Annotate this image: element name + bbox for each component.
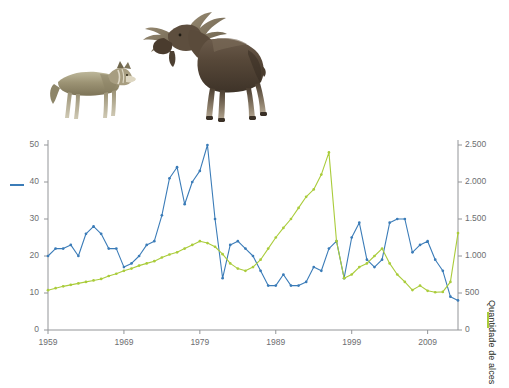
series-point bbox=[267, 284, 270, 287]
y-tick-right: 0 bbox=[465, 324, 495, 334]
series-point bbox=[69, 284, 72, 287]
series-point bbox=[388, 221, 391, 224]
y-tick-right: 500 bbox=[465, 287, 495, 297]
series-point bbox=[252, 255, 255, 258]
series-point bbox=[381, 258, 384, 261]
y-tick-right: 1.500 bbox=[465, 213, 495, 223]
series-point bbox=[358, 266, 361, 269]
series-point bbox=[77, 255, 80, 258]
series-point bbox=[411, 251, 414, 254]
series-point bbox=[312, 188, 315, 191]
series-point bbox=[441, 269, 444, 272]
y-tick-left: 50 bbox=[17, 139, 39, 149]
series-point bbox=[282, 273, 285, 276]
series-point bbox=[312, 266, 315, 269]
series-point bbox=[404, 281, 407, 284]
series-point bbox=[244, 269, 247, 272]
series-point bbox=[85, 232, 88, 235]
series-point bbox=[282, 227, 285, 230]
series-point bbox=[335, 240, 338, 243]
series-point bbox=[123, 266, 126, 269]
series-point bbox=[100, 278, 103, 281]
series-point bbox=[350, 236, 353, 239]
series-point bbox=[457, 299, 460, 302]
series-point bbox=[183, 247, 186, 250]
y-tick-right: 1.000 bbox=[465, 250, 495, 260]
series-point bbox=[252, 266, 255, 269]
series-point bbox=[214, 245, 217, 248]
series-point bbox=[305, 195, 308, 198]
series-point bbox=[457, 232, 460, 235]
series-point bbox=[381, 247, 384, 250]
series-point bbox=[130, 262, 133, 265]
series-point bbox=[191, 181, 194, 184]
animal-illustration-band bbox=[0, 0, 509, 128]
series-point bbox=[426, 240, 429, 243]
series-point bbox=[290, 284, 293, 287]
series-point bbox=[274, 236, 277, 239]
series-point bbox=[161, 256, 164, 259]
wolf-illustration bbox=[48, 48, 136, 120]
x-tick: 1979 bbox=[180, 337, 220, 347]
x-tick: 1969 bbox=[104, 337, 144, 347]
series-point bbox=[199, 240, 202, 243]
series-point bbox=[145, 262, 148, 265]
series-point bbox=[69, 244, 72, 247]
series-point bbox=[373, 266, 376, 269]
series-point bbox=[350, 273, 353, 276]
series-lines bbox=[47, 144, 460, 302]
y-tick-left: 10 bbox=[17, 287, 39, 297]
y-tick-right: 2.000 bbox=[465, 176, 495, 186]
series-point bbox=[130, 267, 133, 270]
series-point bbox=[221, 277, 224, 280]
x-tick: 2009 bbox=[408, 337, 448, 347]
series-point bbox=[297, 284, 300, 287]
series-point bbox=[176, 166, 179, 169]
series-point bbox=[396, 218, 399, 221]
series-point bbox=[434, 258, 437, 261]
series-point bbox=[328, 247, 331, 250]
series-point bbox=[343, 277, 346, 280]
series-point bbox=[259, 269, 262, 272]
series-point bbox=[404, 218, 407, 221]
series-point bbox=[138, 255, 141, 258]
population-line-chart: Quantidade de lobos Quantidade de alces … bbox=[0, 128, 509, 350]
series-point bbox=[100, 232, 103, 235]
x-tick: 1999 bbox=[332, 337, 372, 347]
series-point bbox=[206, 144, 209, 147]
series-point bbox=[199, 170, 202, 173]
moose-illustration bbox=[128, 4, 268, 122]
series-point bbox=[297, 207, 300, 210]
series-line bbox=[48, 152, 458, 292]
series-point bbox=[107, 275, 110, 278]
plot-canvas bbox=[0, 128, 509, 350]
x-tick: 1989 bbox=[256, 337, 296, 347]
series-point bbox=[411, 289, 414, 292]
series-point bbox=[77, 282, 80, 285]
series-point bbox=[396, 273, 399, 276]
series-point bbox=[123, 269, 126, 272]
series-point bbox=[274, 284, 277, 287]
series-point bbox=[153, 260, 156, 263]
series-point bbox=[47, 255, 50, 258]
series-point bbox=[229, 244, 232, 247]
series-point bbox=[54, 287, 57, 290]
series-point bbox=[221, 253, 224, 256]
series-point bbox=[434, 291, 437, 294]
series-point bbox=[328, 151, 331, 154]
series-point bbox=[419, 244, 422, 247]
series-point bbox=[449, 295, 452, 298]
series-point bbox=[388, 262, 391, 265]
series-point bbox=[366, 258, 369, 261]
series-point bbox=[54, 247, 57, 250]
series-point bbox=[168, 177, 171, 180]
series-point bbox=[176, 251, 179, 254]
series-point bbox=[62, 247, 65, 250]
series-point bbox=[320, 173, 323, 176]
series-point bbox=[449, 281, 452, 284]
series-point bbox=[62, 285, 65, 288]
y-tick-left: 20 bbox=[17, 250, 39, 260]
series-point bbox=[206, 242, 209, 245]
series-point bbox=[320, 269, 323, 272]
series-point bbox=[373, 255, 376, 258]
